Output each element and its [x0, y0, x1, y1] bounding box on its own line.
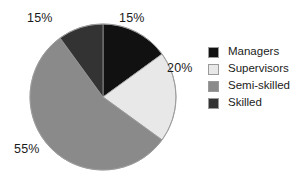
pie-chart-figure: 15% 15% 20% 55% Managers Supervisors Sem… — [0, 0, 307, 180]
slice-label-semi-skilled: 55% — [14, 143, 40, 156]
legend-label-skilled: Skilled — [228, 97, 262, 109]
legend-swatch-managers — [208, 47, 219, 58]
legend-item-skilled: Skilled — [208, 95, 307, 111]
legend-swatch-semi-skilled — [208, 81, 219, 92]
slice-label-skilled: 15% — [27, 12, 53, 25]
legend-swatch-supervisors — [208, 64, 219, 75]
legend-label-semi-skilled: Semi-skilled — [228, 80, 290, 92]
legend-item-managers: Managers — [208, 44, 307, 60]
legend-item-semi-skilled: Semi-skilled — [208, 78, 307, 94]
slice-label-supervisors: 20% — [167, 62, 193, 75]
pie-chart-plot-area: 15% 15% 20% 55% — [0, 0, 200, 180]
chart-legend: Managers Supervisors Semi-skilled Skille… — [208, 44, 307, 112]
slice-label-managers: 15% — [119, 12, 145, 25]
pie-slice-group — [30, 24, 176, 170]
legend-label-supervisors: Supervisors — [228, 63, 289, 75]
legend-item-supervisors: Supervisors — [208, 61, 307, 77]
legend-swatch-skilled — [208, 98, 219, 109]
legend-label-managers: Managers — [228, 46, 279, 58]
